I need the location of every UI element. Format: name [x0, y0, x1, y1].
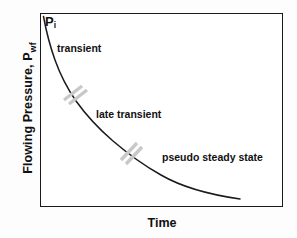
- initial-pressure-label: Pi: [45, 14, 56, 29]
- x-axis-title: Time: [40, 216, 284, 230]
- transient-label: transient: [57, 42, 101, 54]
- pressure-decline-chart: Flowing Pressure, Pwf Pi transient late …: [0, 0, 297, 238]
- pseudo-steady-state-label: pseudo steady state: [162, 151, 263, 163]
- initial-pressure-label-subscript: i: [54, 20, 56, 30]
- late-transient-label: late transient: [96, 108, 161, 120]
- initial-pressure-label-text: P: [45, 14, 54, 29]
